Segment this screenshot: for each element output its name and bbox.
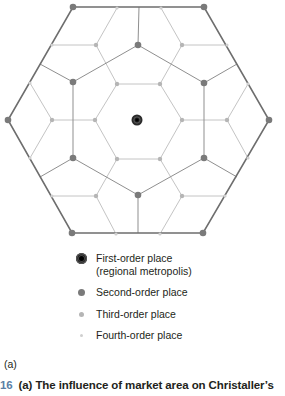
panel-label: (a): [4, 358, 17, 370]
second-order-place: [201, 4, 208, 11]
fourth-order-place: [246, 82, 249, 85]
second-order-place: [135, 42, 142, 49]
second-order-place: [70, 79, 77, 86]
third-order-place: [180, 43, 184, 47]
second-order-place: [70, 4, 77, 11]
legend-label: First-order place: [96, 252, 285, 265]
second-order-spoke: [204, 64, 237, 83]
second-order-place: [266, 117, 273, 124]
second-order-place: [201, 80, 208, 87]
third-order-place: [158, 157, 162, 161]
third-order-place: [225, 118, 229, 122]
figure-number: 16: [0, 379, 13, 391]
fourth-order-place: [28, 156, 31, 159]
third-order-place: [158, 82, 162, 86]
legend-item-third-order: Third-order place: [76, 308, 285, 321]
second-order-place: [200, 230, 207, 237]
legend-label: Third-order place: [96, 308, 176, 320]
second-order-place: [69, 230, 76, 237]
fourth-order-link: [160, 196, 182, 234]
fourth-order-place: [114, 232, 117, 235]
fourth-order-link: [96, 8, 117, 45]
fourth-order-place: [158, 232, 161, 235]
legend-label: Second-order place: [96, 286, 188, 298]
second-order-spoke: [40, 64, 73, 82]
fourth-order-place: [225, 43, 228, 46]
fourth-order-place: [223, 194, 226, 197]
third-order-place: [94, 194, 98, 198]
legend-item-first-order: First-order place (regional metropolis): [76, 252, 285, 277]
first-order-place-core: [135, 118, 139, 122]
fourth-order-link: [227, 120, 248, 158]
legend-item-second-order: Second-order place: [76, 286, 285, 299]
fourth-order-place-icon: [80, 334, 83, 337]
second-order-place: [135, 192, 142, 199]
third-order-place: [115, 157, 119, 161]
first-order-place-icon: [76, 253, 87, 264]
second-order-spoke: [40, 158, 73, 177]
third-order-place: [94, 43, 98, 47]
second-order-place: [201, 155, 208, 162]
fourth-order-place: [115, 6, 118, 9]
second-order-place: [5, 117, 12, 124]
fourth-order-link: [227, 84, 248, 120]
third-order-place: [180, 194, 184, 198]
fourth-order-place: [159, 6, 162, 9]
fourth-order-link: [30, 120, 52, 158]
third-order-place: [93, 118, 97, 122]
fourth-order-place: [50, 194, 53, 197]
fourth-order-link: [96, 196, 116, 234]
fourth-order-place: [246, 156, 249, 159]
legend-sublabel: (regional metropolis): [96, 265, 285, 278]
third-order-link: [96, 45, 117, 84]
third-order-link: [160, 159, 182, 196]
second-order-place-icon: [78, 289, 85, 296]
second-order-place: [70, 155, 77, 162]
legend-label: Fourth-order place: [96, 329, 182, 341]
legend-item-fourth-order: Fourth-order place: [76, 329, 285, 342]
legend: First-order place (regional metropolis) …: [76, 252, 285, 351]
third-order-place: [180, 118, 184, 122]
caption-text: (a) The influence of market area on Chri…: [19, 379, 274, 391]
third-order-place: [115, 82, 119, 86]
fourth-order-place: [50, 43, 53, 46]
third-order-place: [50, 118, 54, 122]
figure-caption: 16(a) The influence of market area on Ch…: [0, 379, 274, 391]
central-place-diagram: [0, 0, 285, 245]
fourth-order-place: [28, 81, 31, 84]
second-order-spoke: [204, 158, 237, 177]
second-order-spoke: [138, 7, 139, 45]
third-order-place-icon: [79, 312, 84, 317]
fourth-order-link: [30, 83, 52, 120]
fourth-order-link: [161, 8, 182, 45]
